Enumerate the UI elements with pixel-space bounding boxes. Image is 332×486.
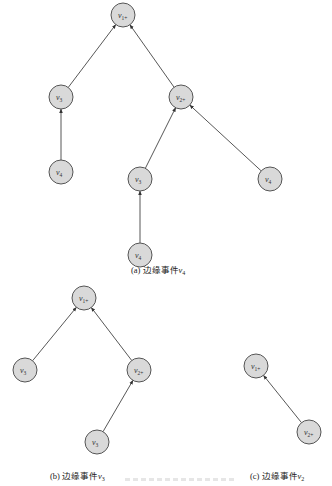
caption-b: (b) 边缘事件v3 xyxy=(50,469,105,482)
node-b_v3: v3 xyxy=(13,358,37,382)
edge-b_v3b-to-b_v2p xyxy=(103,380,133,431)
caption-a: (a) 边缘事件v4 xyxy=(131,263,185,276)
node-a_v4b: v4 xyxy=(258,167,282,191)
caption-c: (c) 边缘事件v2 xyxy=(250,469,304,482)
caption-a-prefix: (a) 边缘事件 xyxy=(131,265,179,275)
node-b_v3b: v3 xyxy=(85,430,109,454)
node-a_v4a: v4 xyxy=(49,160,73,184)
caption-c-prefix: (c) 边缘事件 xyxy=(250,471,298,481)
edge-a_v4b-to-a_v2p xyxy=(190,105,261,171)
caption-c-sub: 2 xyxy=(301,476,304,482)
node-a_v3b: v3 xyxy=(128,167,152,191)
edge-b_v3-to-b_v1p xyxy=(33,307,77,360)
node-b_v2p: v2+ xyxy=(127,358,151,382)
caption-a-sub: 4 xyxy=(182,270,185,276)
node-c_v2p: v2+ xyxy=(297,420,321,444)
tree-diagram: v1+v3v2+v4v3v4v4v1+v3v2+v3v1+v2+ xyxy=(0,0,332,486)
node-c_v1p: v1+ xyxy=(244,354,268,378)
node-a_v1p: v1+ xyxy=(111,3,135,27)
faded-figure-title xyxy=(125,478,235,481)
caption-b-sub: 3 xyxy=(102,476,105,482)
node-a_v2p: v2+ xyxy=(169,85,193,109)
edge-b_v2p-to-b_v1p xyxy=(91,308,131,361)
node-b_v1p: v1+ xyxy=(72,286,96,310)
edge-c_v2p-to-c_v1p xyxy=(264,375,302,422)
nodes-layer: v1+v3v2+v4v3v4v4v1+v3v2+v3v1+v2+ xyxy=(13,3,321,454)
node-a_v3: v3 xyxy=(49,85,73,109)
caption-b-prefix: (b) 边缘事件 xyxy=(50,471,98,481)
edge-a_v3b-to-a_v2p xyxy=(145,108,175,169)
edge-a_v2p-to-a_v1p xyxy=(130,25,174,87)
edge-a_v3-to-a_v1p xyxy=(68,25,116,88)
